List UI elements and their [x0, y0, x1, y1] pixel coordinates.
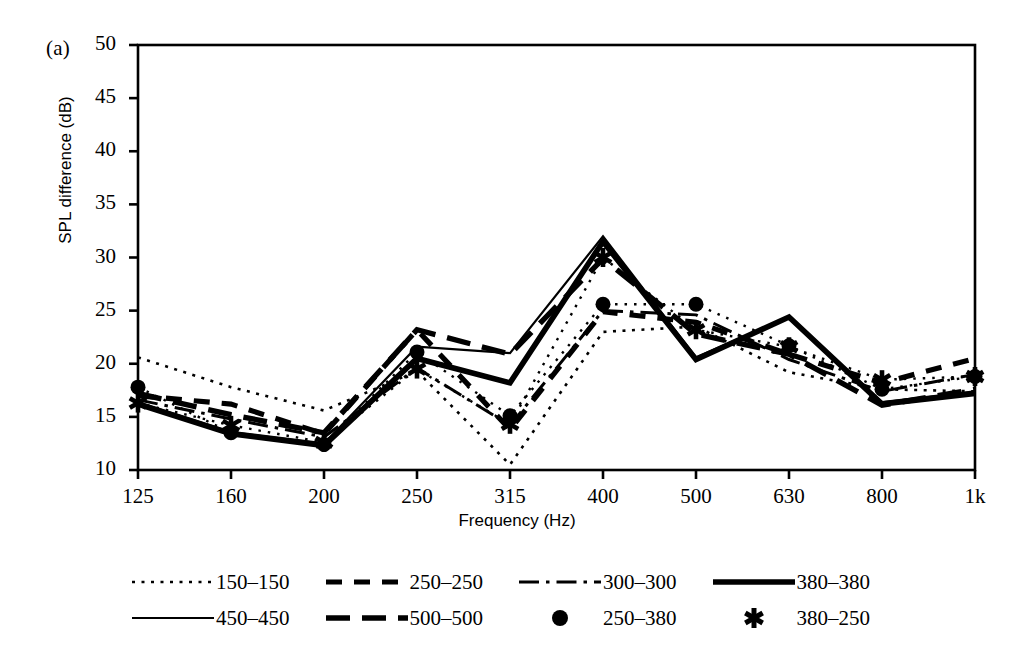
legend-sample-thick-dashed: [324, 605, 410, 631]
legend-label: 250–380: [603, 606, 711, 631]
legend-item-500-500: 500–500: [324, 601, 518, 635]
legend-row: 450–450500–500250–380380–250: [0, 601, 1034, 635]
legend-swatch: [324, 569, 410, 595]
legend-label: 450–450: [216, 606, 324, 631]
legend-label: 250–250: [410, 570, 518, 595]
legend-swatch: [517, 569, 603, 595]
legend-sample-thick-solid: [711, 569, 797, 595]
legend-swatch: [517, 605, 603, 631]
figure-panel-a: (a) SPL difference (dB) Frequency (Hz) 5…: [0, 0, 1034, 661]
legend-label: 150–150: [216, 570, 324, 595]
legend-item-300-300: 300–300: [517, 565, 711, 599]
legend-swatch: [130, 605, 216, 631]
legend-swatch: [324, 605, 410, 631]
series-150-150: [138, 327, 975, 465]
legend-label: 380–250: [797, 606, 905, 631]
legend-item-450-450: 450–450: [130, 601, 324, 635]
legend-item-250-380: 250–380: [517, 601, 711, 635]
legend-label: 300–300: [603, 570, 711, 595]
legend-item-150-150: 150–150: [130, 565, 324, 599]
legend-sample-dashed: [324, 569, 410, 595]
legend-swatch: [711, 605, 797, 631]
legend-row: 150–150250–250300–300380–380: [0, 565, 1034, 599]
legend-sample-star-marker: [711, 605, 797, 631]
data-series-group: [130, 236, 983, 464]
legend-item-250-250: 250–250: [324, 565, 518, 599]
series-500-500: [138, 259, 975, 433]
legend-item-380-380: 380–380: [711, 565, 905, 599]
plot-area: [0, 0, 1034, 661]
legend-item-380-250: 380–250: [711, 601, 905, 635]
legend-label: 380–380: [797, 570, 905, 595]
legend-sample-dotted: [130, 569, 216, 595]
legend-swatch: [130, 569, 216, 595]
legend-label: 500–500: [410, 606, 518, 631]
legend-sample-dashdot: [517, 569, 603, 595]
legend-sample-thin-solid: [130, 605, 216, 631]
legend: 150–150250–250300–300380–380450–450500–5…: [0, 565, 1034, 655]
legend-swatch: [711, 569, 797, 595]
legend-sample-circle-marker: [517, 605, 603, 631]
